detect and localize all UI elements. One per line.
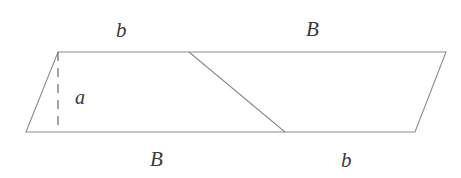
diagonal-cut-line [189,52,285,132]
height-label: a [75,87,85,107]
side-label-top-left: b [116,20,127,41]
geometry-figure: b B a B b [0,0,461,178]
side-label-bottom-right: b [341,150,352,171]
side-label-bottom-left: B [150,149,163,170]
geometry-canvas [0,0,461,178]
parallelogram-outline [26,52,446,132]
side-label-top-right: B [306,19,319,40]
